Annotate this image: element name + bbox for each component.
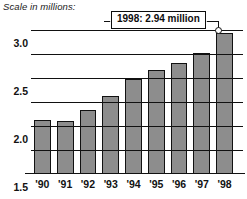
bar [34,120,51,174]
y-axis-tick-mark [234,102,243,103]
gridline: 0.5 [31,150,234,151]
y-axis-tick-label: 2.0 [13,134,28,145]
x-axis-tick-label: '94 [126,178,140,190]
bar-chart: Scale in millions: 0.51.01.52.02.53.0 '9… [0,0,247,199]
x-axis-line [25,173,245,174]
bar [193,53,210,174]
y-axis-tick-mark [234,30,243,31]
y-axis-tick-label: 1.5 [13,182,28,193]
y-axis-tick-label: 2.5 [13,86,28,97]
x-axis-tick-label: '98 [218,178,232,190]
bar [148,70,165,174]
bar [57,121,74,174]
y-axis-tick-mark [234,150,243,151]
x-axis-tick-label: '95 [149,178,163,190]
x-axis-tick-label: '90 [35,178,49,190]
gridline: 2.0 [31,78,234,79]
x-axis-tick-label: '96 [172,178,186,190]
bar [102,96,119,174]
x-axis-tick-label: '97 [195,178,209,190]
callout-annotation: 1998: 2.94 million [111,11,206,29]
y-axis-tick-label: 3.0 [13,38,28,49]
bar [80,110,97,174]
chart-caption: Scale in millions: [3,1,76,12]
gridline: 1.5 [31,102,234,103]
gridline: 3.0 [31,30,234,31]
data-point-marker-icon [215,27,222,34]
x-axis-tick-label: '93 [104,178,118,190]
gridline: 2.5 [31,54,234,55]
gridline: 1.0 [31,126,234,127]
y-axis-tick-mark [234,54,243,55]
y-axis-tick-mark [234,78,243,79]
x-axis-tick-label: '92 [81,178,95,190]
plot-area: 0.51.01.52.02.53.0 '90'91'92'93'94'95'96… [31,18,236,174]
y-axis-tick-mark [234,126,243,127]
bar [171,63,188,174]
x-axis-tick-label: '91 [58,178,72,190]
